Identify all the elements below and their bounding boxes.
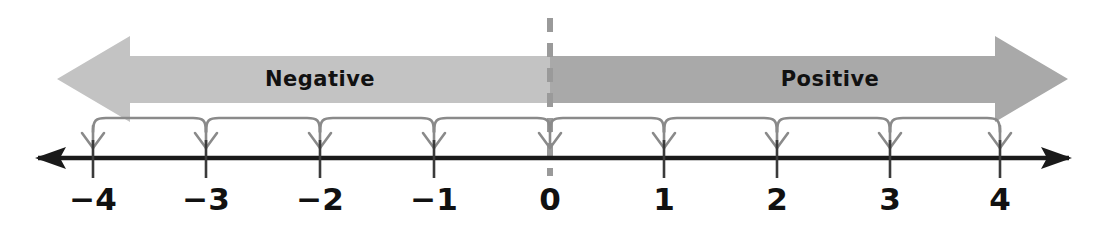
axis-tick-label: −4 xyxy=(69,181,117,217)
brace-arc xyxy=(550,118,664,132)
negative-band-label: Negative xyxy=(265,67,375,91)
brace-arc xyxy=(93,118,206,132)
axis-tick-label: 1 xyxy=(653,181,675,217)
number-line-canvas: Negative Positive xyxy=(0,0,1107,235)
axis-tick-label: −2 xyxy=(296,181,344,217)
axis-tick-label: −3 xyxy=(182,181,230,217)
brace-arc xyxy=(664,118,777,132)
axis-tick-label: 2 xyxy=(766,181,788,217)
brace-arc xyxy=(320,118,434,132)
axis-tick-labels: −4 −3 −2 −1 0 1 2 3 4 xyxy=(69,181,1011,217)
axis-tick-label: 4 xyxy=(989,181,1011,217)
number-line-figure: Negative Positive xyxy=(0,0,1107,235)
axis-tick-label: −1 xyxy=(410,181,458,217)
axis-tick-label: 3 xyxy=(879,181,901,217)
brace-arc xyxy=(434,118,550,132)
unit-step-brace xyxy=(82,118,1011,148)
brace-arc xyxy=(777,118,890,132)
positive-band-label: Positive xyxy=(781,67,880,91)
brace-arc xyxy=(890,118,1000,132)
number-line-axis xyxy=(35,140,1072,178)
axis-tick-label: 0 xyxy=(539,181,561,217)
brace-arc xyxy=(206,118,320,132)
direction-band: Negative Positive xyxy=(57,36,1068,122)
